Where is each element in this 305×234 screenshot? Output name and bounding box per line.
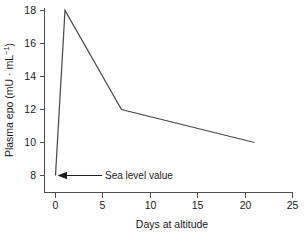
y-axis-title-tail: ) bbox=[3, 43, 15, 47]
data-series-line bbox=[56, 11, 255, 176]
y-tick-label-10: 10 bbox=[24, 136, 36, 148]
x-tick-label-15: 15 bbox=[192, 199, 204, 211]
y-tick-label-18: 18 bbox=[24, 4, 36, 16]
x-tick-label-0: 0 bbox=[53, 199, 59, 211]
y-axis-title-main: Plasma epo (mU · mL bbox=[3, 55, 15, 157]
x-tick-label-5: 5 bbox=[100, 199, 106, 211]
y-tick-label-8: 8 bbox=[30, 169, 36, 181]
y-axis-title: Plasma epo (mU · mL−1) bbox=[2, 43, 15, 157]
x-tick-label-20: 20 bbox=[240, 199, 252, 211]
sea-level-annotation-label: Sea level value bbox=[105, 170, 173, 181]
y-tick-label-16: 16 bbox=[24, 37, 36, 49]
sea-level-annotation-arrow bbox=[58, 172, 103, 179]
x-tick-label-10: 10 bbox=[145, 199, 157, 211]
y-tick-label-14: 14 bbox=[24, 70, 36, 82]
epo-line-chart: 8 10 12 14 16 18 0 5 10 15 20 25 Sea lev… bbox=[0, 0, 305, 234]
y-tick-label-12: 12 bbox=[24, 103, 36, 115]
y-axis-ticks bbox=[40, 11, 45, 176]
chart-figure: 8 10 12 14 16 18 0 5 10 15 20 25 Sea lev… bbox=[0, 0, 305, 234]
x-tick-label-25: 25 bbox=[287, 199, 299, 211]
y-axis-title-superscript: −1 bbox=[2, 46, 11, 55]
x-axis-ticks bbox=[56, 193, 293, 198]
x-axis-title: Days at altitude bbox=[136, 218, 209, 230]
svg-text:Plasma epo (mU · mL−1): Plasma epo (mU · mL−1) bbox=[2, 43, 15, 157]
